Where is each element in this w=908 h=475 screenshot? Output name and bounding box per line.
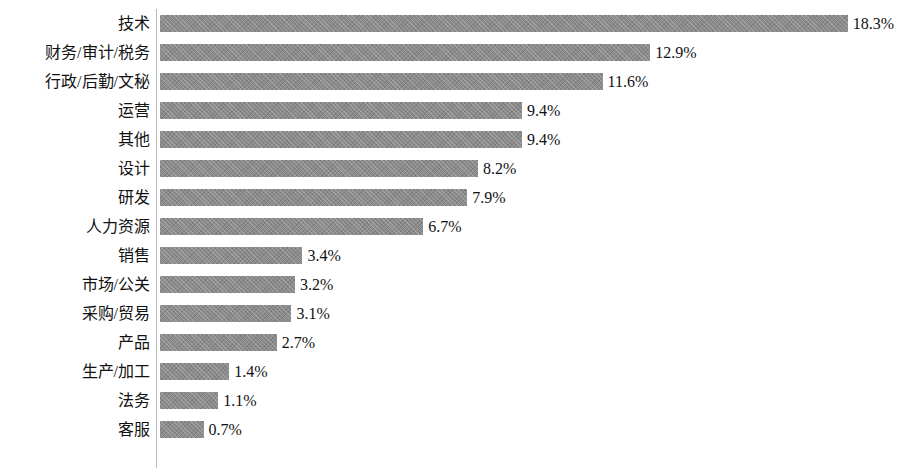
bar-row: 设计8.2% xyxy=(0,154,908,183)
category-label: 市场/公关 xyxy=(0,270,150,299)
bar-value-label: 18.3% xyxy=(848,15,894,32)
bar xyxy=(160,421,204,438)
category-label: 客服 xyxy=(0,415,150,444)
bar xyxy=(160,102,522,119)
bar-row: 财务/审计/税务12.9% xyxy=(0,38,908,67)
bar-wrapper xyxy=(160,73,603,90)
bar-value-label: 7.9% xyxy=(467,189,505,206)
category-label: 技术 xyxy=(0,9,150,38)
bar-wrapper xyxy=(160,218,423,235)
bar-row: 客服0.7% xyxy=(0,415,908,444)
bar-row: 法务1.1% xyxy=(0,386,908,415)
bar xyxy=(160,218,423,235)
bar-wrapper xyxy=(160,189,467,206)
bar-wrapper xyxy=(160,44,650,61)
bar-wrapper xyxy=(160,102,522,119)
bar-row: 销售3.4% xyxy=(0,241,908,270)
bar-value-label: 9.4% xyxy=(522,102,560,119)
bar-row: 人力资源6.7% xyxy=(0,212,908,241)
bar-wrapper xyxy=(160,334,277,351)
bar xyxy=(160,305,291,322)
category-label: 财务/审计/税务 xyxy=(0,38,150,67)
bar xyxy=(160,189,467,206)
bar xyxy=(160,334,277,351)
bar-value-label: 6.7% xyxy=(423,218,461,235)
bar-value-label: 3.1% xyxy=(291,305,329,322)
bar-value-label: 2.7% xyxy=(277,334,315,351)
bar-row: 采购/贸易3.1% xyxy=(0,299,908,328)
bar-value-label: 11.6% xyxy=(603,73,649,90)
bar-row: 运营9.4% xyxy=(0,96,908,125)
bar-row: 研发7.9% xyxy=(0,183,908,212)
category-label: 其他 xyxy=(0,125,150,154)
bar-wrapper xyxy=(160,421,204,438)
category-label: 研发 xyxy=(0,183,150,212)
category-label: 产品 xyxy=(0,328,150,357)
bar xyxy=(160,247,302,264)
bar xyxy=(160,15,848,32)
bar-wrapper xyxy=(160,131,522,148)
bar-row: 生产/加工1.4% xyxy=(0,357,908,386)
bar-wrapper xyxy=(160,305,291,322)
category-label: 人力资源 xyxy=(0,212,150,241)
bar-row: 技术18.3% xyxy=(0,9,908,38)
bar-row: 市场/公关3.2% xyxy=(0,270,908,299)
bar xyxy=(160,131,522,148)
bar-row: 其他9.4% xyxy=(0,125,908,154)
bar-row: 产品2.7% xyxy=(0,328,908,357)
bar-value-label: 9.4% xyxy=(522,131,560,148)
plot-area: 技术18.3%财务/审计/税务12.9%行政/后勤/文秘11.6%运营9.4%其… xyxy=(0,9,908,475)
category-label: 行政/后勤/文秘 xyxy=(0,67,150,96)
bar xyxy=(160,73,603,90)
bar-wrapper xyxy=(160,247,302,264)
bar-row: 行政/后勤/文秘11.6% xyxy=(0,67,908,96)
bar xyxy=(160,392,218,409)
bar xyxy=(160,276,295,293)
category-label: 设计 xyxy=(0,154,150,183)
bar xyxy=(160,44,650,61)
category-label: 采购/贸易 xyxy=(0,299,150,328)
bar-wrapper xyxy=(160,363,229,380)
bar xyxy=(160,160,478,177)
bar-value-label: 0.7% xyxy=(204,421,242,438)
bar-value-label: 8.2% xyxy=(478,160,516,177)
bar xyxy=(160,363,229,380)
bar-wrapper xyxy=(160,160,478,177)
bar-wrapper xyxy=(160,392,218,409)
bar-wrapper xyxy=(160,276,295,293)
bar-value-label: 1.1% xyxy=(218,392,256,409)
category-label: 销售 xyxy=(0,241,150,270)
bar-value-label: 12.9% xyxy=(650,44,696,61)
category-label: 法务 xyxy=(0,386,150,415)
bar-chart-page: 技术18.3%财务/审计/税务12.9%行政/后勤/文秘11.6%运营9.4%其… xyxy=(0,0,908,475)
bar-value-label: 1.4% xyxy=(229,363,267,380)
chart-title-cropped xyxy=(0,0,908,9)
bar-value-label: 3.4% xyxy=(302,247,340,264)
category-label: 生产/加工 xyxy=(0,357,150,386)
bar-wrapper xyxy=(160,15,848,32)
category-label: 运营 xyxy=(0,96,150,125)
bar-value-label: 3.2% xyxy=(295,276,333,293)
